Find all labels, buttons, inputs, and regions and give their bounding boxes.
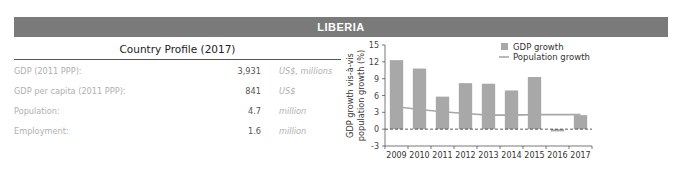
country-profile-table: Country Profile (2017) GDP (2011 PPP): 3… (14, 40, 341, 140)
row-value: 3,931 (238, 66, 261, 76)
chart-svg: -303691215200920102011201220132014201520… (340, 38, 681, 170)
profile-title: Country Profile (2017) (14, 40, 341, 58)
profile-row-population: Population: 4.7 million (14, 100, 341, 120)
x-tick-label: 2010 (409, 151, 429, 160)
x-tick-label: 2016 (547, 151, 567, 160)
x-tick-label: 2015 (524, 151, 544, 160)
gdp-population-chart: -303691215200920102011201220132014201520… (340, 38, 681, 170)
y-tick-label: 0 (374, 125, 379, 134)
y-tick-label: -3 (371, 142, 379, 151)
row-value: 1.6 (248, 126, 261, 136)
x-tick-label: 2014 (501, 151, 521, 160)
y-tick-label: 6 (374, 92, 379, 101)
profile-row-gdp: GDP (2011 PPP): 3,931 US$, millions (14, 60, 341, 80)
row-value: 4.7 (248, 106, 261, 116)
legend-bar-swatch-icon (501, 43, 508, 50)
x-tick-label: 2009 (386, 151, 406, 160)
row-label: Employment: (14, 126, 69, 136)
row-label: Population: (14, 106, 60, 116)
legend-label: GDP growth (513, 42, 564, 52)
gdp-growth-bar (482, 84, 495, 129)
profile-row-employment: Employment: 1.6 million (14, 120, 341, 140)
row-label: GDP (2011 PPP): (14, 66, 82, 76)
x-tick-label: 2017 (570, 151, 590, 160)
row-unit: US$ (279, 86, 295, 96)
y-axis-label: GDP growth vis-à-vis (345, 53, 355, 138)
row-unit: million (279, 126, 306, 136)
gdp-growth-bar (459, 83, 472, 129)
row-unit: million (279, 106, 306, 116)
x-tick-label: 2011 (432, 151, 452, 160)
y-tick-label: 3 (374, 108, 379, 117)
gdp-growth-bar (413, 69, 426, 130)
x-tick-label: 2013 (478, 151, 498, 160)
country-header: LIBERIA (14, 17, 668, 37)
legend-label: Population growth (513, 52, 590, 62)
country-title: LIBERIA (317, 21, 365, 33)
row-label: GDP per capita (2011 PPP): (14, 86, 126, 96)
gdp-growth-bar (574, 115, 587, 129)
row-value: 841 (245, 86, 261, 96)
gdp-growth-bar (528, 77, 541, 129)
profile-row-gdp-per-capita: GDP per capita (2011 PPP): 841 US$ (14, 80, 341, 100)
y-tick-label: 9 (374, 75, 379, 84)
gdp-growth-bar (390, 60, 403, 129)
gdp-growth-bar (505, 90, 518, 129)
y-tick-label: 12 (369, 58, 379, 67)
y-axis-label: population growth (%) (356, 50, 366, 141)
row-unit: US$, millions (279, 66, 332, 76)
y-tick-label: 15 (369, 41, 379, 50)
x-tick-label: 2012 (455, 151, 475, 160)
